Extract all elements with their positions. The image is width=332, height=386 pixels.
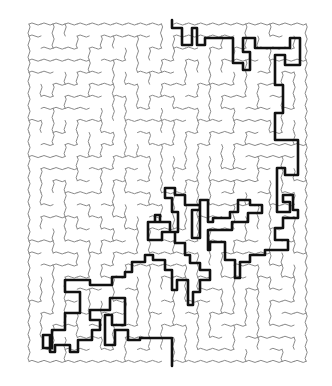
solution-path xyxy=(43,20,300,366)
maze-walls xyxy=(28,23,307,363)
maze-puzzle: Maze with solution path xyxy=(0,0,332,386)
maze-wall-segments xyxy=(28,23,307,363)
maze-canvas[interactable] xyxy=(0,0,332,386)
